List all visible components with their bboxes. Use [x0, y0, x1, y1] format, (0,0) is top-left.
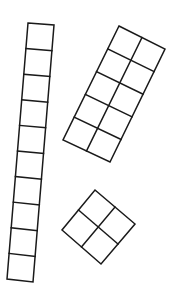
grid-line — [82, 207, 116, 247]
grid-line — [11, 228, 37, 231]
tilted-rect-2x5 — [63, 26, 165, 162]
grid-line — [26, 49, 52, 51]
grid-line — [24, 74, 50, 76]
grid-line — [22, 100, 48, 102]
diagram-canvas — [0, 0, 173, 295]
grid-shapes-diagram — [0, 0, 173, 295]
grid-line — [20, 125, 46, 127]
vertical-strip-1x10 — [7, 23, 54, 282]
grid-line — [18, 151, 44, 154]
grid-line — [15, 177, 41, 180]
grid-line — [87, 38, 143, 152]
grid-line — [9, 253, 35, 256]
diamond-square-2x2 — [62, 190, 135, 264]
grid-line — [13, 202, 39, 205]
